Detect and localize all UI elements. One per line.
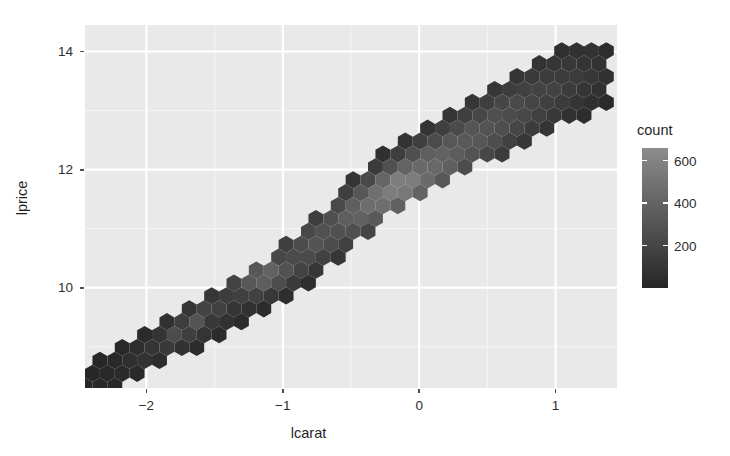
y-tick-mark [80,51,84,53]
legend-title: count [637,122,672,138]
legend-tick-mark [663,245,668,247]
panel-canvas [85,25,617,388]
x-tick-label: −1 [263,398,303,413]
x-tick-mark [146,389,148,393]
x-tick-label: 1 [536,398,576,413]
legend-tick-label: 600 [674,153,697,168]
legend-tick-mark [642,245,647,247]
legend-tick-mark [642,202,647,204]
y-tick-label: 12 [33,162,73,177]
hexbin-cells [85,42,614,388]
legend-tick-label: 400 [674,196,697,211]
y-tick-mark [80,169,84,171]
x-tick-mark [555,389,557,393]
legend-tick-mark [642,160,647,162]
y-axis-title: lprice [14,138,30,258]
legend-tick-label: 200 [674,238,697,253]
legend-tick-mark [663,202,668,204]
x-axis-title: lcarat [0,425,730,441]
x-tick-mark [418,389,420,393]
legend-colorbar [642,148,668,288]
y-tick-label: 14 [33,44,73,59]
y-tick-mark [80,287,84,289]
x-tick-mark [282,389,284,393]
legend-tick-mark [663,160,668,162]
legend-gradient-fill [642,148,668,288]
plot-panel [85,25,617,388]
x-tick-label: 0 [399,398,439,413]
x-tick-label: −2 [126,398,166,413]
hexbin-plot-figure: 141210 lprice −2−101 lcarat count 600400… [0,0,730,456]
y-tick-label: 10 [33,280,73,295]
